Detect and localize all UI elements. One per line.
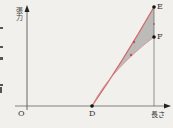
point-e-label: E <box>157 3 163 11</box>
origin-label: O <box>18 110 25 118</box>
point-d <box>90 104 94 108</box>
curve-marker <box>133 41 135 43</box>
unloading-curve <box>92 37 154 106</box>
edge-text-fragment <box>0 84 3 86</box>
tension-length-diagram <box>0 0 173 128</box>
y-axis-arrow-icon <box>25 5 30 12</box>
x-axis-arrow-icon <box>164 104 171 109</box>
curve-marker <box>130 54 132 56</box>
point-e <box>152 5 156 9</box>
point-f-label: F <box>157 33 163 41</box>
y-axis-label: 張力 <box>15 7 22 21</box>
edge-text-fragment <box>0 57 3 60</box>
x-axis-label: 長さ <box>151 112 165 119</box>
edge-text-fragment <box>0 27 3 29</box>
edge-text-fragment <box>0 87 2 93</box>
point-f <box>152 35 156 39</box>
edge-text-fragment <box>0 46 3 48</box>
point-d-label: D <box>89 110 95 118</box>
